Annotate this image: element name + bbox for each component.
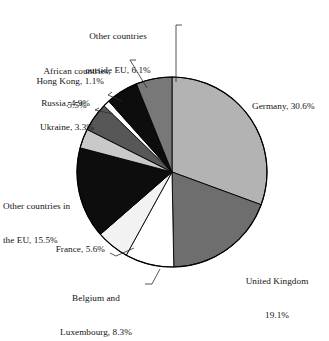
label-united-kingdom: United Kingdom 19.1% [232,253,322,341]
label-other-outside-eu-line1: Other countries [62,31,174,42]
label-hong-kong: Hong Kong, 1.1% [6,76,104,87]
label-belgium-luxembourg-line1: Belgium and [48,293,144,304]
label-germany: Germany, 30.6% [252,101,328,112]
leader-line-outside-eu [176,25,182,82]
label-belgium-luxembourg: Belgium and Luxembourg, 8.3% [48,270,144,341]
label-united-kingdom-line2: 19.1% [232,310,322,321]
label-ukraine: Ukraine, 3.3% [6,122,94,133]
label-russia: Russia, 4.9% [6,98,90,109]
label-united-kingdom-line1: United Kingdom [232,276,322,287]
label-african-countries: African countries, 5.5% [28,43,126,134]
label-other-countries-eu: Other countries in the EU, 15.5% [3,178,107,269]
leader-line-belgium [145,269,160,284]
label-belgium-luxembourg-line2: Luxembourg, 8.3% [48,327,144,338]
label-france: France, 5.6% [20,244,105,255]
label-other-countries-eu-line1: Other countries in [3,201,107,212]
